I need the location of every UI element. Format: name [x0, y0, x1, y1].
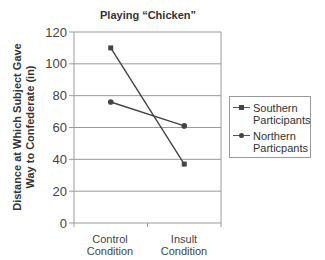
x-category-control-line-1: Control — [73, 233, 147, 245]
y-tick-label: 100 — [45, 56, 67, 71]
legend-label-southern-line-1: Southern — [253, 102, 310, 114]
circle-marker-icon — [108, 99, 114, 105]
y-tick-label: 80 — [53, 88, 67, 103]
x-category-control-line-2: Condition — [73, 245, 147, 257]
y-tick-label: 20 — [53, 184, 67, 199]
legend-label-southern-line-2: Participants — [253, 114, 310, 126]
square-marker-icon — [182, 162, 187, 167]
y-tick-label: 40 — [53, 152, 67, 167]
square-marker-icon — [108, 45, 113, 50]
y-tick-label: 60 — [53, 120, 67, 135]
legend-label-northern-line-1: Northern — [253, 130, 308, 142]
x-category-insult: Insult Condition — [147, 233, 221, 257]
y-tick-labels: 020406080100120 — [45, 25, 67, 231]
y-tick-label: 0 — [60, 216, 67, 231]
x-category-control: Control Condition — [73, 233, 147, 257]
axes — [69, 32, 221, 227]
circle-marker-icon — [181, 123, 187, 129]
legend-label-northern-line-2: Particpants — [253, 142, 308, 154]
legend-line-square-marker-icon — [233, 107, 250, 108]
x-category-insult-line-2: Condition — [147, 245, 221, 257]
legend-line-circle-marker-icon — [233, 135, 250, 136]
gridlines — [74, 32, 221, 191]
x-category-insult-line-1: Insult — [147, 233, 221, 245]
y-tick-label: 120 — [45, 25, 67, 40]
legend: Southern Participants Northern Particpan… — [229, 96, 311, 158]
